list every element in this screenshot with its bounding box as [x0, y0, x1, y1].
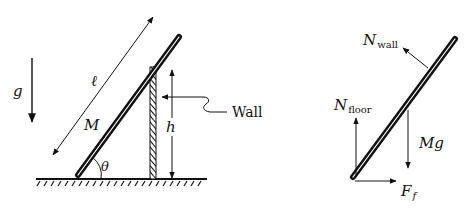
- n-wall-label: Nwall: [362, 31, 398, 50]
- gravity-label: g: [13, 82, 23, 100]
- right-panel: Nwall Nfloor Mg Ff: [333, 31, 455, 201]
- friction-label: Ff: [400, 182, 418, 201]
- mass-label: M: [83, 116, 100, 134]
- angle-label: θ: [101, 159, 109, 174]
- angle-arc: [92, 157, 101, 179]
- n-wall-arrow: [403, 48, 428, 68]
- height-label: h: [166, 118, 176, 136]
- length-arrow: [53, 17, 153, 155]
- ground: [36, 179, 207, 186]
- n-floor-label: Nfloor: [333, 96, 372, 115]
- left-panel: g ℓ M θ h Wall: [13, 17, 263, 186]
- length-label: ℓ: [91, 72, 97, 90]
- weight-label: Mg: [418, 134, 444, 152]
- wall-label: Wall: [232, 104, 263, 120]
- ladder: [78, 37, 179, 175]
- ladder-diagram: g ℓ M θ h Wall Nwall Nfloor Mg Ff: [0, 0, 471, 208]
- wall: [150, 67, 156, 179]
